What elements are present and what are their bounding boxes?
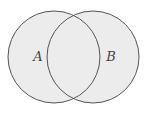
- set-a-label: A: [32, 49, 42, 64]
- set-circles: [8, 11, 139, 103]
- set-b-label: B: [105, 49, 116, 64]
- venn-diagram: A B: [0, 0, 147, 115]
